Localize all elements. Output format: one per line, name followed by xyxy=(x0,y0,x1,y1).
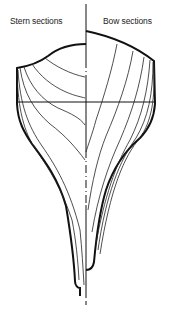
bow-section-lines xyxy=(86,44,154,254)
stern-hull-outline xyxy=(17,44,86,296)
body-plan-drawing xyxy=(0,0,179,322)
bow-hull-outline xyxy=(86,31,155,270)
